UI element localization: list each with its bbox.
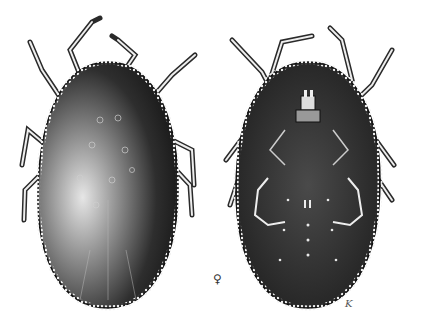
- illustration-canvas: ♀ K: [0, 0, 421, 333]
- artist-monogram: K: [345, 298, 352, 309]
- ventral-view: [226, 28, 394, 308]
- dorsal-view: [22, 18, 195, 308]
- female-symbol: ♀: [213, 272, 222, 286]
- tick-illustration: [0, 0, 421, 333]
